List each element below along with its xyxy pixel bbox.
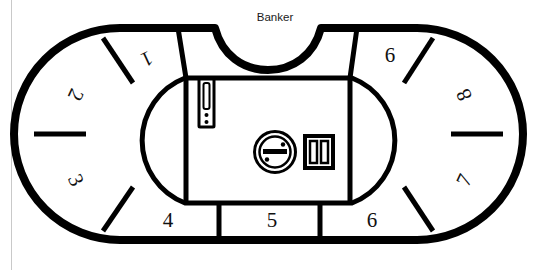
drop-box-slot-icon xyxy=(199,79,214,127)
drop-box-slit xyxy=(204,83,210,109)
chip-tray-icon xyxy=(305,136,333,168)
commission-dot-lower xyxy=(265,157,269,161)
chip-tray-slot-left xyxy=(310,141,317,163)
commission-circle-icon xyxy=(255,132,296,173)
drop-box-dot-upper xyxy=(205,113,209,117)
commission-bar xyxy=(263,149,287,154)
seat-number-4: 4 xyxy=(163,208,174,232)
seat-number-6: 6 xyxy=(367,208,378,232)
commission-dot-upper xyxy=(281,142,285,146)
banker-label: Banker xyxy=(257,11,294,23)
drop-box-dot-lower xyxy=(205,120,209,124)
chip-tray-slot-right xyxy=(321,141,328,163)
baccarat-table-diagram: 1 2 3 4 5 6 7 8 6 xyxy=(0,0,537,270)
seat-number-9: 6 xyxy=(385,43,396,67)
diagram-canvas: 1 2 3 4 5 6 7 8 6 xyxy=(0,0,537,270)
seat-number-5: 5 xyxy=(267,208,278,232)
